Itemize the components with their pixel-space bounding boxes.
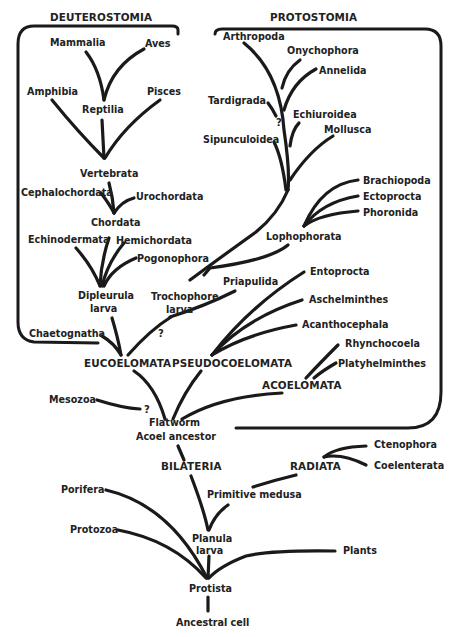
label-echiuroidea: Echiuroidea (293, 109, 357, 120)
label-ctenophora: Ctenophora (374, 439, 437, 450)
label-trochophore-larva: larva (166, 304, 193, 315)
branch-tardigrada (268, 103, 276, 116)
label-flatworm: Flatworm (149, 417, 200, 428)
label-coelenterata: Coelenterata (374, 460, 444, 471)
label-rhynchocoela: Rhynchocoela (345, 338, 420, 349)
branch-urochordata (114, 198, 134, 213)
label-ancestral-cell: Ancestral cell (176, 617, 249, 628)
branch-mollusca (290, 136, 333, 180)
label-lophophorata: Lophophorata (266, 231, 342, 242)
label-annelida: Annelida (319, 65, 367, 76)
label-dipleurula: Dipleurula (78, 290, 134, 301)
label-porifera: Porifera (61, 484, 105, 495)
branch-primitive-medusa (209, 505, 228, 530)
branch-radiata (253, 475, 296, 487)
label-pseudocoelomata: PSEUDOCOELOMATA (172, 357, 292, 369)
branch-flatworm-bilateria (178, 446, 184, 460)
label-plants: Plants (343, 545, 377, 556)
uncertain-mark-trochophore: ? (158, 328, 164, 339)
label-entoprocta: Entoprocta (310, 266, 370, 277)
label-bilateria: BILATERIA (161, 460, 222, 472)
label-acoel-ancestor: Acoel ancestor (136, 431, 216, 442)
label-tardigrada: Tardigrada (208, 95, 266, 106)
label-acoelomata: ACOELOMATA (262, 379, 342, 391)
label-planula: Planula (192, 533, 232, 544)
branch-pogonophora (104, 258, 136, 286)
label-pisces: Pisces (147, 86, 181, 97)
label-vertebrata: Vertebrata (80, 168, 138, 179)
label-deuterostomia: DEUTEROSTOMIA (50, 11, 152, 23)
label-urochordata: Urochordata (136, 191, 203, 202)
label-primitive-medusa: Primitive medusa (207, 489, 302, 500)
label-amphibia: Amphibia (27, 86, 78, 97)
uncertain-mark-mesozoa: ? (144, 404, 150, 415)
label-eucoelomata: EUCOELOMATA (84, 357, 171, 369)
branch-trochophore-down (128, 317, 171, 355)
label-ectoprocta: Ectoprocta (363, 191, 421, 202)
label-echinodermata: Echinodermata (28, 234, 109, 245)
label-mammalia: Mammalia (50, 37, 106, 48)
label-reptilia: Reptilia (82, 104, 124, 115)
label-protozoa: Protozoa (70, 524, 118, 535)
label-priapulida: Priapulida (223, 276, 278, 287)
label-mesozoa: Mesozoa (49, 394, 96, 405)
branch-sipunculoidea (274, 142, 286, 190)
label-aschelminthes: Aschelminthes (309, 294, 388, 305)
label-protostomia: PROTOSTOMIA (270, 11, 357, 23)
label-acanthocephala: Acanthocephala (302, 319, 389, 330)
branch-aves (104, 49, 144, 100)
label-onychophora: Onychophora (287, 45, 359, 56)
label-dipleurula-larva: larva (90, 303, 117, 314)
label-planula-larva: larva (196, 545, 223, 556)
branch-echiuroidea (290, 123, 299, 146)
phylogenetic-tree: DEUTEROSTOMIA PROTOSTOMIA EUCOELOMATA PS… (0, 0, 452, 637)
branch-mammalia (86, 52, 104, 100)
uncertain-mark-tardigrada: ? (276, 117, 282, 128)
label-arthropoda: Arthropoda (223, 31, 285, 42)
label-chaetognatha: Chaetognatha (29, 328, 105, 339)
label-trochophore: Trochophore (151, 291, 219, 302)
branch-planula-protista (208, 556, 209, 578)
branch-reptilia (102, 120, 104, 158)
branch-bilateria-planula (191, 476, 208, 530)
label-brachiopoda: Brachiopoda (363, 175, 431, 186)
label-platyhelminthes: Platyhelminthes (338, 358, 426, 369)
label-mollusca: Mollusca (324, 124, 371, 135)
label-radiata: RADIATA (290, 460, 341, 472)
label-pogonophora: Pogonophora (137, 253, 209, 264)
label-sipunculoidea: Sipunculoidea (203, 134, 279, 145)
branch-acoelomata (182, 393, 282, 419)
branch-plants (209, 551, 335, 578)
label-cephalochordata: Cephalochordata (21, 187, 113, 198)
label-hemichordata: Hemichordata (116, 235, 192, 246)
label-protista: Protista (189, 583, 232, 594)
label-aves: Aves (145, 38, 171, 49)
label-chordata: Chordata (91, 217, 141, 228)
branch-echinodermata (76, 248, 100, 286)
branch-annelida (284, 69, 316, 110)
branch-mesozoa (97, 400, 140, 409)
label-phoronida: Phoronida (363, 207, 418, 218)
